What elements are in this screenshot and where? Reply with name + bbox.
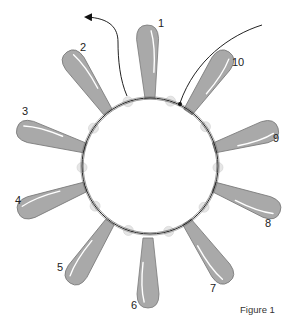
petal-5 [61, 216, 119, 289]
petal-number-2: 2 [80, 42, 86, 53]
petal-6 [137, 238, 159, 308]
petal-number-8: 8 [265, 218, 271, 229]
petal-number-10: 10 [232, 57, 244, 68]
petal-number-4: 4 [15, 195, 21, 206]
petal-3 [14, 117, 88, 158]
beaded-flower-diagram [0, 0, 292, 329]
figure-caption: Figure 1 [240, 304, 275, 315]
petal-7 [178, 216, 238, 289]
petal-number-7: 7 [210, 283, 216, 294]
petal-number-9: 9 [273, 133, 279, 144]
petal-8 [210, 177, 284, 223]
petal-number-1: 1 [158, 18, 164, 29]
petal-number-5: 5 [57, 262, 63, 273]
petal-1 [136, 25, 161, 99]
wire-entry-point [178, 102, 182, 106]
petal-2 [58, 46, 117, 118]
petal-4 [14, 177, 89, 223]
wire-ring [81, 97, 219, 235]
petal-9 [211, 118, 282, 159]
petal-10 [179, 46, 238, 118]
petal-number-3: 3 [22, 106, 28, 117]
seed-beads [77, 96, 223, 236]
petal-number-6: 6 [131, 300, 137, 311]
